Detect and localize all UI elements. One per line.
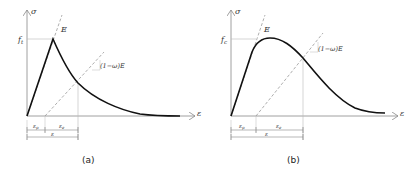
panel-b: σ ε fc E (1−ω)E εp εe ε (b) <box>220 7 404 165</box>
damaged-modulus-line <box>45 52 104 116</box>
dim-plastic-label: εp <box>239 123 245 130</box>
dim-total-label: ε <box>51 131 54 137</box>
dim-plastic-label: εp <box>33 123 39 130</box>
stress-strain-diagram: σ ε ft E (1−ω)E εp εe ε (a) σ ε fc <box>0 0 417 176</box>
damaged-label: (1−ω)E <box>318 45 343 53</box>
caption-a: (a) <box>82 155 95 165</box>
x-axis-label: ε <box>400 109 404 118</box>
caption-b: (b) <box>287 155 300 165</box>
stress-strain-curve <box>27 39 180 116</box>
stress-strain-curve <box>231 38 385 116</box>
dim-total-label: ε <box>265 131 268 137</box>
y-axis-label: σ <box>31 7 37 16</box>
peak-label: fc <box>220 35 227 45</box>
peak-label: ft <box>17 35 24 45</box>
elastic-label: E <box>263 25 270 34</box>
dim-elastic-label: εe <box>276 123 282 130</box>
y-axis-label: σ <box>235 7 241 16</box>
damaged-label: (1−ω)E <box>100 62 125 70</box>
elastic-label: E <box>60 25 67 34</box>
x-axis-label: ε <box>197 109 201 118</box>
panel-a: σ ε ft E (1−ω)E εp εe ε (a) <box>17 7 201 165</box>
dim-elastic-label: εe <box>59 123 65 130</box>
